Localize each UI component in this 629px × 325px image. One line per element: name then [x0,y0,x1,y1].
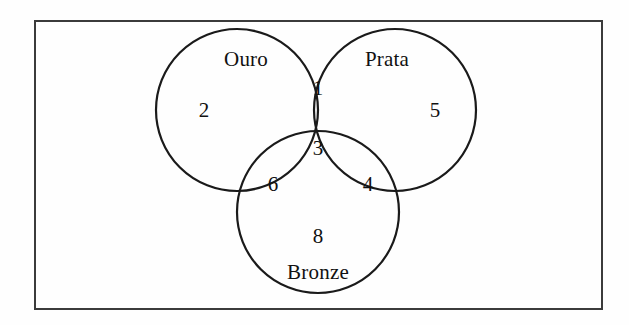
region-count-prata-bronze: 4 [363,174,374,195]
region-count-prata-only: 5 [430,100,441,121]
region-count-ouro-prata-bronze: 3 [313,138,324,159]
region-count-ouro-only: 2 [199,100,210,121]
set-label-prata: Prata [365,49,409,70]
set-label-bronze: Bronze [287,262,349,283]
region-count-bronze-only: 8 [313,226,324,247]
region-count-ouro-bronze: 6 [268,174,279,195]
venn-diagram-figure: Ouro Prata Bronze 2 5 8 1 6 4 3 [0,0,629,325]
region-count-ouro-prata: 1 [313,78,324,99]
set-label-ouro: Ouro [224,49,268,70]
